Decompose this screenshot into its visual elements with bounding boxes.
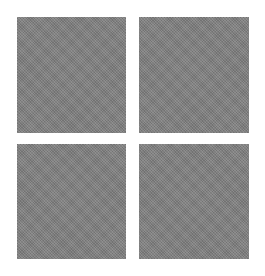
tile-bottom-left	[17, 144, 126, 259]
tile-bottom-right	[139, 144, 249, 259]
tile-top-right	[139, 17, 249, 133]
tile-top-left	[17, 17, 126, 133]
